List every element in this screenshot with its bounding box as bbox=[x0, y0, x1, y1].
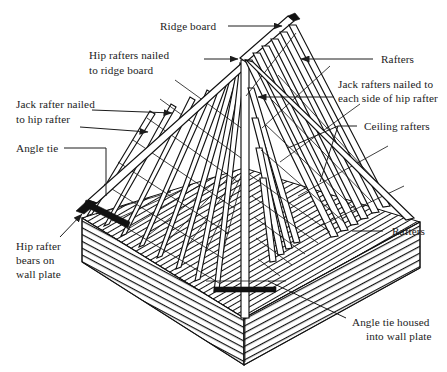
label-angle-tie: Angle tie bbox=[16, 142, 58, 154]
label-angle-tie-housed-line1: Angle tie housed bbox=[352, 316, 430, 328]
label-rafters-right: Rafters bbox=[392, 225, 425, 237]
label-hip-rafter-bears-line2: bears on bbox=[16, 254, 55, 266]
label-hip-rafters-nailed-line2: to ridge board bbox=[89, 64, 153, 76]
label-jack-rafter-nailed-line2: to hip rafter bbox=[16, 113, 70, 125]
label-hip-rafters-nailed-line1: Hip rafters nailed bbox=[89, 49, 169, 61]
label-hip-rafter-bears-line1: Hip rafter bbox=[16, 240, 61, 252]
label-rafters-top-right: Rafters bbox=[381, 53, 414, 65]
label-jack-rafters-each-side-line2: each side of hip rafter bbox=[338, 92, 438, 104]
diagram-canvas: Ridge board Hip rafters nailed to ridge … bbox=[0, 0, 447, 372]
roof-construction-diagram: Ridge board Hip rafters nailed to ridge … bbox=[0, 0, 447, 372]
label-jack-rafter-nailed-line1: Jack rafter nailed bbox=[16, 98, 95, 110]
label-angle-tie-housed-line2: into wall plate bbox=[366, 330, 432, 342]
label-jack-rafters-each-side-line1: Jack rafters nailed to bbox=[338, 78, 433, 90]
label-ridge-board: Ridge board bbox=[160, 20, 216, 32]
hip-rafter-front bbox=[241, 60, 249, 362]
label-ceiling-rafters: Ceiling rafters bbox=[364, 120, 430, 132]
label-hip-rafter-bears-line3: wall plate bbox=[16, 268, 61, 280]
